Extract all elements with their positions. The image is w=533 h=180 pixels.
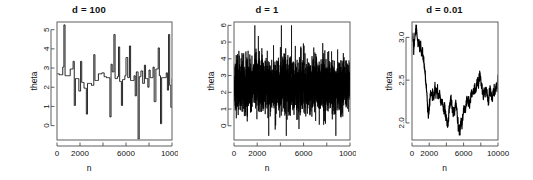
x-tick-label: 2000 [248, 149, 266, 158]
plot-area: 020006000100002.02.53.0theta [356, 0, 533, 180]
y-tick-label: 6 [219, 23, 228, 28]
x-tick-label: 10000 [161, 149, 178, 158]
panel-d-0-01: d = 0.01 020006000100002.02.53.0theta n [356, 0, 533, 180]
trace-line [57, 25, 172, 139]
x-tick-label: 6000 [455, 149, 473, 158]
trace-plot-figure: d = 100 02000600010000012345theta n d = … [0, 0, 533, 180]
y-tick-label: 5 [42, 27, 51, 32]
y-tick-label: 4 [42, 46, 51, 51]
y-tick-label: 4 [219, 56, 228, 61]
y-tick-label: 1 [42, 104, 51, 109]
panel-d-1: d = 1 020006000100000123456theta n [178, 0, 356, 180]
x-tick-label: 2000 [420, 149, 438, 158]
y-axis-label: theta [206, 71, 216, 90]
x-tick-label: 0 [410, 149, 415, 158]
x-tick-label: 6000 [117, 149, 135, 158]
x-tick-label: 10000 [339, 149, 356, 158]
y-tick-label: 1 [219, 106, 228, 111]
y-tick-label: 2 [219, 90, 228, 95]
y-tick-label: 5 [219, 39, 228, 44]
y-tick-label: 2.0 [397, 117, 406, 129]
x-axis-label: n [356, 163, 533, 173]
x-tick-label: 2000 [71, 149, 89, 158]
x-tick-label: 6000 [295, 149, 313, 158]
y-tick-label: 3 [42, 65, 51, 70]
y-tick-label: 3.0 [397, 31, 406, 43]
panel-d-100: d = 100 02000600010000012345theta n [0, 0, 178, 180]
trace-line [234, 25, 350, 135]
trace-line [412, 25, 498, 135]
y-tick-label: 2.5 [397, 74, 406, 86]
x-axis-label: n [178, 163, 356, 173]
y-tick-label: 0 [42, 123, 51, 128]
plot-area: 02000600010000012345theta [0, 0, 178, 180]
x-axis-label: n [0, 163, 178, 173]
x-tick-label: 10000 [487, 149, 510, 158]
y-tick-label: 0 [219, 123, 228, 128]
plot-area: 020006000100000123456theta [178, 0, 356, 180]
x-tick-label: 0 [55, 149, 60, 158]
x-tick-label: 0 [232, 149, 237, 158]
y-axis-label: theta [384, 71, 394, 90]
y-tick-label: 3 [219, 73, 228, 78]
y-tick-label: 2 [42, 84, 51, 89]
y-axis-label: theta [29, 71, 39, 90]
